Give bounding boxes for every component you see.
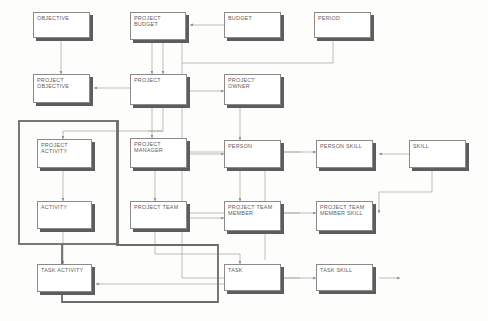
connector-project-to-project-manager-b [148,108,163,131]
entity-label: PROJECT TEAM MEMBER [228,204,278,217]
entity-activity[interactable]: ACTIVITY [37,201,92,229]
entity-budget[interactable]: BUDGET [224,12,281,38]
entity-label: TASK ACTIVITY [41,267,89,273]
entity-task-skill[interactable]: TASK SKILL [316,264,373,291]
entity-project-budget[interactable]: PROJECT BUDGET [130,12,186,40]
entity-project-team[interactable]: PROJECT TEAM [130,201,187,229]
entity-label: PROJECT TEAM [134,204,184,210]
connector-skill-branch [379,192,432,213]
entity-label: PROJECT OWNER [228,77,278,90]
entity-label: PROJECT ACTIVITY [41,142,89,155]
entity-project-activity[interactable]: PROJECT ACTIVITY [37,139,92,168]
entity-label: PROJECT [134,77,184,83]
entity-objective[interactable]: OBJECTIVE [33,12,90,38]
entity-label: TASK SKILL [320,267,370,273]
entity-task-activity[interactable]: TASK ACTIVITY [37,264,92,292]
connector-period-to-budget-row [182,40,333,63]
entity-project-manager[interactable]: PROJECT MANAGER [130,138,187,168]
entity-label: PROJECT BUDGET [134,15,183,28]
entity-person[interactable]: PERSON [224,140,281,168]
entity-task[interactable]: TASK [224,264,281,291]
entity-person-skill[interactable]: PERSON SKILL [316,140,373,168]
connector-project-team-to-task [155,254,240,264]
entity-label: ACTIVITY [41,204,89,210]
entity-project-team-member-skill[interactable]: PROJECT TEAM MEMBER SKILL [316,201,373,231]
entity-project-team-member[interactable]: PROJECT TEAM MEMBER [224,201,281,231]
entity-label: PERIOD [318,15,368,21]
entity-project-objective[interactable]: PROJECT OBJECTIVE [33,74,90,103]
entity-label: PERSON [228,143,278,149]
entity-label: PROJECT MANAGER [134,141,184,154]
entity-skill[interactable]: SKILL [409,140,466,168]
entity-label: SKILL [413,143,463,149]
entity-label: OBJECTIVE [37,15,87,21]
entity-label: PERSON SKILL [320,143,370,149]
entity-label: PROJECT OBJECTIVE [37,77,87,90]
entity-period[interactable]: PERIOD [314,12,371,38]
entity-label: BUDGET [228,15,278,21]
entity-label: PROJECT TEAM MEMBER SKILL [320,204,370,217]
entity-label: TASK [228,267,278,273]
er-diagram-canvas: OBJECTIVE PROJECT BUDGET BUDGET PERIOD P… [0,0,488,321]
entity-project-owner[interactable]: PROJECT OWNER [224,74,281,105]
entity-project[interactable]: PROJECT [130,74,187,105]
